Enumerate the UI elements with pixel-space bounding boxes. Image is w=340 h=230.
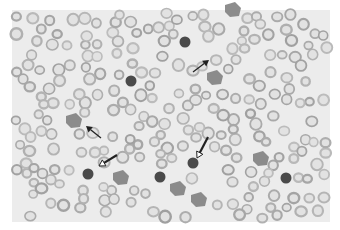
micrograph-figure: [0, 0, 340, 230]
rbc-cell: [319, 170, 329, 180]
rbc-cell: [311, 159, 323, 171]
rbc-cell: [159, 36, 170, 46]
lymphocyte-cell: [188, 158, 199, 169]
rbc-cell: [184, 126, 193, 135]
rbc-cell: [35, 110, 43, 118]
rbc-cell: [25, 82, 35, 91]
rbc-cell: [82, 63, 91, 72]
rbc-cell: [284, 84, 294, 94]
rbc-cell: [272, 12, 282, 21]
rbc-cell: [159, 119, 170, 130]
rbc-cell: [221, 146, 231, 155]
rbc-cell: [240, 44, 249, 52]
rbc-cell: [297, 147, 306, 156]
rbc-cell: [172, 15, 182, 24]
rbc-cell: [231, 55, 240, 64]
rbc-cell: [37, 25, 46, 34]
rbc-cell: [230, 134, 241, 146]
rbc-cell: [218, 110, 229, 121]
rbc-cell: [296, 60, 307, 71]
rbc-cell: [135, 122, 144, 130]
rbc-cell: [92, 19, 101, 28]
rbc-cell: [81, 31, 92, 41]
rbc-cell: [269, 89, 280, 99]
rbc-cell: [298, 19, 309, 30]
rbc-cell: [288, 193, 299, 203]
rbc-cell: [47, 129, 57, 139]
rbc-cell: [318, 95, 329, 106]
lymphocyte-cell: [83, 169, 94, 180]
rbc-cell: [244, 74, 255, 83]
rbc-cell: [180, 212, 190, 222]
rbc-cell: [286, 35, 297, 46]
rbc-cell: [157, 159, 167, 168]
rbc-cell: [113, 49, 122, 58]
rbc-cell: [294, 173, 303, 181]
rbc-cell: [265, 50, 276, 60]
rbc-cell: [136, 67, 147, 77]
rbc-cell: [178, 141, 188, 150]
rbc-cell: [279, 126, 290, 135]
rbc-cell: [50, 165, 59, 174]
rbc-cell: [191, 85, 200, 94]
rbc-cell: [227, 43, 237, 54]
rbc-cell: [223, 165, 234, 175]
rbc-cell: [48, 98, 59, 108]
rbc-cell: [217, 131, 226, 139]
rbc-cell: [161, 9, 172, 19]
rbc-cell: [23, 60, 34, 70]
rbc-cell: [264, 169, 273, 177]
rbc-cell: [92, 52, 102, 61]
rbc-cell: [113, 36, 124, 46]
rbc-cell: [224, 65, 233, 74]
rbc-cell: [153, 22, 164, 32]
rbc-cell: [11, 28, 23, 40]
rbc-cell: [285, 9, 295, 20]
rbc-cell: [93, 90, 103, 101]
rbc-cell: [304, 42, 312, 50]
rbc-cell: [321, 138, 331, 147]
rbc-cell: [79, 194, 88, 203]
rbc-cell: [211, 55, 222, 65]
rbc-cell: [80, 108, 89, 117]
rbc-cell: [173, 59, 184, 71]
rbc-cell: [186, 173, 197, 184]
rbc-cell: [68, 14, 79, 26]
rbc-cell: [148, 94, 157, 102]
rbc-cell: [190, 95, 201, 105]
rbc-cell: [213, 201, 222, 210]
rbc-cell: [198, 10, 208, 21]
rbc-cell: [127, 198, 136, 207]
rbc-cell: [157, 52, 168, 61]
rbc-cell: [12, 165, 22, 174]
rbc-cell: [147, 116, 157, 127]
rbc-cell: [250, 118, 261, 130]
rbc-cell: [254, 81, 265, 91]
rbc-cell: [150, 68, 161, 77]
rbc-cell: [141, 189, 150, 198]
rbc-cell: [48, 143, 59, 154]
rbc-cell: [169, 30, 178, 39]
rbc-cell: [281, 25, 292, 35]
rbc-cell: [25, 212, 36, 221]
rbc-cell: [146, 81, 155, 90]
rbc-cell: [132, 29, 141, 37]
rbc-cell: [187, 66, 198, 76]
rbc-cell: [188, 12, 197, 20]
rbc-cell: [125, 17, 136, 28]
rbc-cell: [144, 25, 153, 34]
rbc-cell: [210, 142, 220, 152]
rbc-cell: [130, 186, 139, 195]
rbc-cell: [45, 16, 54, 25]
rbc-cell: [268, 111, 279, 120]
rbc-cell: [266, 67, 276, 77]
rbc-cell: [228, 199, 239, 209]
rbc-cell: [273, 211, 282, 220]
rbc-cell: [135, 153, 144, 162]
rbc-cell: [99, 183, 108, 191]
rbc-cell: [44, 83, 55, 94]
rbc-cell: [79, 13, 91, 24]
rbc-cell: [242, 13, 252, 23]
rbc-cell: [90, 148, 100, 158]
rbc-cell: [81, 41, 90, 49]
